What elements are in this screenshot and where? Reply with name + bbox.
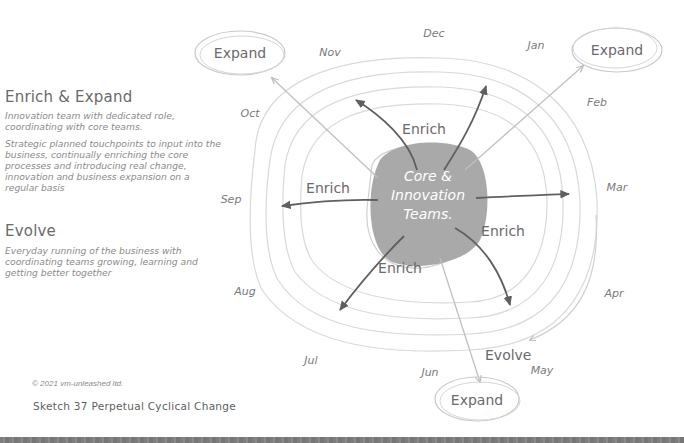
enrich-label-left: Enrich: [306, 180, 350, 196]
svg-text:Expand: Expand: [591, 42, 643, 58]
expand-s: Expand: [435, 377, 520, 421]
svg-text:Core &: Core &: [404, 168, 452, 184]
enrich-label-right: Enrich: [481, 223, 525, 239]
cyclical-change-diagram: Expand Expand Expand Core & Innovation T…: [0, 0, 684, 443]
month-jan: Jan: [526, 39, 545, 52]
month-mar: Mar: [607, 181, 629, 194]
expand-nw: Expand: [195, 31, 285, 75]
month-dec: Dec: [423, 27, 444, 40]
month-feb: Feb: [587, 96, 607, 109]
svg-text:Teams.: Teams.: [403, 206, 452, 222]
expand-arrow-s: [440, 258, 480, 382]
month-jun: Jun: [419, 366, 438, 379]
enrich-label-top: Enrich: [402, 121, 446, 137]
month-jul: Jul: [302, 354, 317, 367]
enrich-arrow-w: [282, 200, 378, 206]
month-aug: Aug: [233, 285, 255, 298]
svg-text:Innovation: Innovation: [391, 187, 465, 203]
month-may: May: [531, 364, 554, 377]
svg-text:Expand: Expand: [214, 45, 266, 61]
month-oct: Oct: [240, 107, 260, 120]
svg-text:Expand: Expand: [451, 392, 503, 408]
month-nov: Nov: [319, 46, 341, 59]
enrich-label-bottom: Enrich: [378, 260, 422, 276]
expand-arrow-ne: [465, 66, 583, 170]
core-blob: [370, 143, 487, 266]
evolve-label: Evolve: [485, 347, 531, 363]
month-apr: Apr: [603, 287, 625, 300]
month-sep: Sep: [221, 193, 242, 206]
footer-band: [0, 437, 684, 443]
expand-ne: Expand: [572, 28, 662, 72]
enrich-arrow-e: [476, 194, 569, 198]
